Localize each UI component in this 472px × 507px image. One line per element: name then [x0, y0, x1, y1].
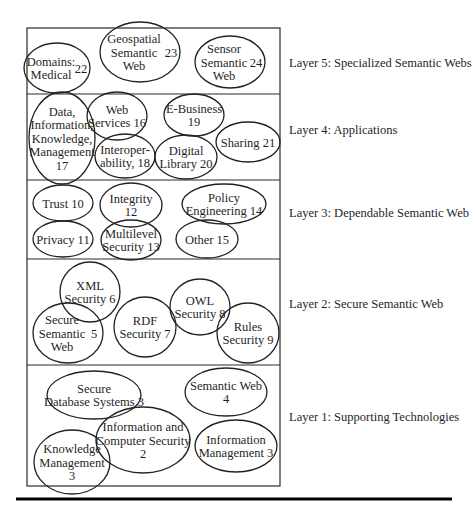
node-label-line: ability, 18 — [100, 156, 150, 170]
layer-layer2-nodes: XMLSecurity 6SecureSemanticWeb5RDFSecuri… — [33, 262, 279, 363]
concept-node-n19: E-Business19 — [164, 94, 224, 136]
layer-layer5-nodes: Domains:Medical22GeospatialSemanticWeb23… — [24, 22, 265, 93]
node-label-line: Management — [29, 145, 95, 159]
concept-node-n8: OWLSecurity 8 — [170, 279, 230, 335]
concept-node-n7: RDFSecurity 7 — [114, 297, 176, 357]
node-label-line: Computer Security — [96, 434, 192, 448]
node-label-line: Engineering 14 — [186, 204, 263, 218]
node-label-line: 2 — [140, 447, 146, 461]
node-label-line: Sensor — [207, 42, 242, 56]
concept-node-n18: Interoper-ability, 18 — [95, 134, 155, 178]
layer-label-layer5: Layer 5: Specialized Semantic Webs — [289, 56, 472, 70]
node-label-line: Web — [106, 103, 129, 117]
layer-layer3-nodes: Trust 10Integrity12PolicyEngineering 14P… — [33, 183, 266, 260]
node-label-line: Security 13 — [102, 240, 159, 254]
concept-node-n22: Domains:Medical22 — [24, 43, 90, 93]
node-label-line: Other 15 — [185, 233, 229, 247]
node-label-line: Security 8 — [174, 307, 225, 321]
node-number: 24 — [250, 56, 263, 70]
node-label-line: Multilevel — [105, 227, 158, 241]
layer-label-layer1: Layer 1: Supporting Technologies — [289, 410, 459, 424]
node-label-line: Data, — [49, 105, 76, 119]
layer-label-layer4: Layer 4: Applications — [289, 123, 397, 137]
node-label-line: Integrity — [109, 192, 153, 206]
concept-node-n17: Data,Information,Knowledge,Management17 — [29, 92, 95, 184]
layer-label-layer2: Layer 2: Secure Semantic Web — [289, 297, 443, 311]
node-label-line: Privacy 11 — [36, 233, 89, 247]
concept-node-n3b: InformationManagement 3 — [195, 420, 277, 472]
concept-node-n20: DigitalLibrary 20 — [155, 135, 217, 179]
layer-layer4-nodes: Data,Information,Knowledge,Management17W… — [29, 92, 280, 184]
node-label-line: Rules — [234, 320, 263, 334]
node-label-line: Security 7 — [119, 327, 170, 341]
node-label-line: Knowledge — [43, 442, 101, 456]
node-label-line: Secure — [77, 382, 111, 396]
node-label-line: Sharing 21 — [221, 136, 276, 150]
node-label-line: E-Business — [166, 102, 222, 116]
concept-node-n4: Semantic Web4 — [185, 368, 267, 416]
layer-label-layer3: Layer 3: Dependable Semantic Web — [289, 206, 469, 220]
node-label-line: Information — [206, 433, 266, 447]
node-label-line: Secure — [45, 313, 79, 327]
node-number: 23 — [165, 46, 178, 60]
node-label-line: Geospatial — [107, 32, 161, 46]
node-label-line: XML — [76, 279, 104, 293]
concept-node-n23: GeospatialSemanticWeb23 — [100, 22, 180, 82]
node-label-line: Digital — [169, 144, 204, 158]
concept-node-n14: PolicyEngineering 14 — [182, 184, 266, 224]
node-label-line: Web — [51, 340, 74, 354]
node-label-line: 12 — [125, 205, 138, 219]
node-label-line: Database Systems 3 — [44, 395, 144, 409]
node-label-line: OWL — [186, 294, 214, 308]
node-label-line: Security 6 — [64, 292, 115, 306]
node-label-line: RDF — [133, 314, 157, 328]
concept-node-n21: Sharing 21 — [216, 122, 280, 162]
node-label-line: Semantic Web — [190, 379, 262, 393]
concept-node-n9: RulesSecurity 9 — [217, 303, 279, 363]
concept-node-n3a: SecureDatabase Systems 3 — [44, 371, 144, 419]
node-number: 22 — [75, 62, 88, 76]
layer-layer1-nodes: SecureDatabase Systems 3Semantic Web4Inf… — [34, 368, 277, 494]
node-label-line: Policy — [208, 191, 241, 205]
concept-node-n15: Other 15 — [176, 220, 238, 258]
concept-nodes: Domains:Medical22GeospatialSemanticWeb23… — [24, 22, 280, 494]
node-label-line: Semantic — [201, 56, 248, 70]
node-label-line: Library 20 — [159, 157, 212, 171]
node-label-line: Security 9 — [222, 333, 273, 347]
node-label-line: Services 16 — [88, 116, 146, 130]
node-label-line: Web — [213, 69, 236, 83]
node-label-line: Interoper- — [100, 143, 150, 157]
node-label-line: Domains: — [27, 55, 76, 69]
concept-node-n3c: KnowledgeManagement3 — [34, 430, 110, 494]
node-label-line: Semantic — [39, 327, 86, 341]
node-label-line: Semantic — [111, 46, 158, 60]
node-label-line: 17 — [56, 159, 69, 173]
node-label-line: Knowledge, — [32, 132, 93, 146]
node-label-line: Information, — [31, 118, 94, 132]
node-label-line: 3 — [69, 469, 75, 483]
concept-node-n10: Trust 10 — [33, 185, 93, 221]
node-label-line: Trust 10 — [42, 197, 84, 211]
node-label-line: Information and — [103, 420, 185, 434]
node-number: 5 — [91, 327, 97, 341]
node-label-line: Management 3 — [199, 446, 274, 460]
node-label-line: Management — [39, 456, 105, 470]
concept-node-n13: MultilevelSecurity 13 — [101, 220, 161, 260]
node-label-line: Medical — [31, 68, 72, 82]
concept-node-n16: WebServices 16 — [87, 92, 147, 140]
concept-node-n11: Privacy 11 — [33, 221, 93, 257]
node-label-line: 19 — [188, 115, 201, 129]
node-label-line: 4 — [223, 392, 230, 406]
concept-node-n24: SensorSemanticWeb24 — [195, 36, 265, 88]
node-label-line: Web — [123, 59, 146, 73]
